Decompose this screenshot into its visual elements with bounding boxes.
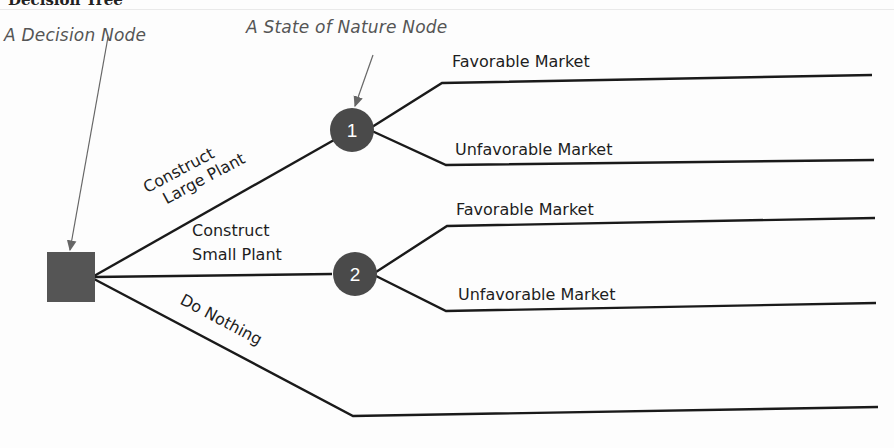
small-plant-label: Construct Small Plant bbox=[192, 219, 282, 267]
node2-favorable-branch bbox=[376, 218, 875, 272]
decision-node-square bbox=[47, 252, 95, 302]
node2-unfavorable-label: Unfavorable Market bbox=[458, 285, 615, 304]
small-plant-label-line1: Construct bbox=[192, 219, 282, 243]
node1-favorable-label: Favorable Market bbox=[452, 52, 590, 71]
node1-unfavorable-label: Unfavorable Market bbox=[455, 140, 612, 159]
node1-unfavorable-branch bbox=[372, 131, 874, 165]
decision-node-callout: A Decision Node bbox=[4, 25, 146, 45]
branch-small-plant bbox=[94, 274, 332, 277]
small-plant-label-line2: Small Plant bbox=[192, 243, 282, 267]
decision-tree-canvas: 1 2 bbox=[0, 0, 894, 448]
state-node-callout-arrow bbox=[355, 55, 373, 106]
decision-node-callout-arrow bbox=[70, 37, 108, 250]
node2-favorable-label: Favorable Market bbox=[456, 200, 594, 219]
state-of-nature-node-callout: A State of Nature Node bbox=[246, 17, 447, 37]
node1-favorable-branch bbox=[372, 75, 872, 127]
state-node-2-number: 2 bbox=[350, 264, 361, 285]
state-node-1-number: 1 bbox=[347, 120, 358, 141]
node2-unfavorable-branch bbox=[376, 276, 876, 311]
